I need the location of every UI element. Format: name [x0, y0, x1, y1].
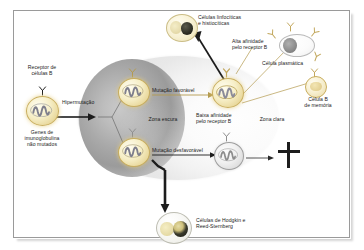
- memory-b-cell: [305, 76, 327, 98]
- mutated-genes-nucleus: [122, 144, 144, 158]
- reed-sternberg-nucleus: [173, 221, 188, 237]
- high-affinity-b-cell: [212, 78, 242, 106]
- dark-zone-label: Zona escura: [140, 116, 186, 122]
- light-zone-label: Zona clara: [250, 116, 294, 122]
- mutated-genes-nucleus: [218, 148, 238, 162]
- naive-b-cell-receptor-icon: [38, 86, 47, 95]
- cross-vertical-bar: [287, 142, 290, 168]
- low-affinity-b-cell: [214, 142, 242, 168]
- low-affinity-receptor-icon: [222, 132, 231, 141]
- reed-sternberg-cell: [156, 212, 192, 244]
- plasma-cell-label: Célula plasmática: [262, 60, 324, 66]
- unfavorable-cell-receptor-icon: [128, 128, 137, 137]
- memory-cell-nucleus: [310, 82, 321, 91]
- immunoglobulin-genes-nucleus: [30, 103, 52, 118]
- mutated-genes-nucleus: [216, 85, 238, 100]
- lymphocytic-nucleus: [181, 22, 194, 35]
- favorable-mutant-b-cell: [118, 78, 148, 105]
- memory-b-cell-group: [304, 68, 328, 96]
- hodgkin-reed-sternberg-label: Células de Hodgkin e Reed-Sternberg: [196, 217, 280, 229]
- high-affinity-label: Alta afinidade pelo receptor B: [232, 38, 294, 50]
- lymphohistiocytic-cell: [166, 14, 198, 42]
- germinal-center-diagram: Receptor de células B Genes de imunoglob…: [0, 0, 364, 250]
- antibody-icon: [286, 22, 295, 31]
- unfavorable-mutation-label: Mutação desfavorável: [152, 147, 216, 153]
- cross-horizontal-bar: [278, 150, 300, 153]
- memory-b-cell-label: Célula B de memória: [294, 96, 342, 108]
- low-affinity-label: Baixa afinidade pelo receptor B: [196, 112, 256, 124]
- hypermutation-label: Hipermutação: [62, 99, 116, 105]
- naive-b-cell: [26, 96, 57, 124]
- apoptosis-cross-icon: [278, 142, 300, 168]
- mutated-genes-nucleus: [122, 84, 144, 98]
- unfavorable-mutant-b-cell: [118, 138, 148, 165]
- favorable-cell-receptor-icon: [128, 68, 137, 77]
- high-affinity-receptor-icon: [222, 68, 231, 77]
- hodgkin-nucleus: [160, 222, 174, 236]
- lymphohistiocytic-cells-label: Células linfocíticas e histiocíticas: [198, 14, 270, 26]
- favorable-mutation-label: Mutação favorável: [152, 87, 214, 93]
- b-cell-receptor-label: Receptor de células B: [8, 64, 76, 76]
- unmutated-genes-label: Genes de imunoglobulina não mutados: [4, 129, 80, 148]
